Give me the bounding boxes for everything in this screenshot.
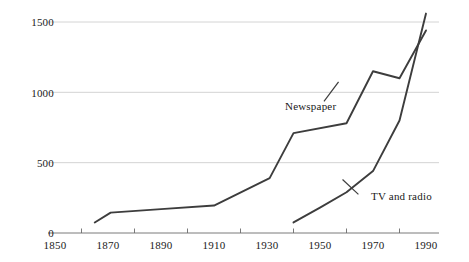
y-tick-label-1500: 1500 [8,16,54,28]
x-tick-label-1990: 1990 [404,239,448,251]
x-tick-label-1930: 1930 [245,239,289,251]
y-tick-label-1000: 1000 [8,87,54,99]
chart-plot-area [0,0,469,262]
x-tick-label-1890: 1890 [139,239,183,251]
x-tick-label-1870: 1870 [86,239,130,251]
x-tick-label-1850: 1850 [33,239,77,251]
series-label-tv-and-radio: TV and radio [371,190,432,202]
y-tick-label-500: 500 [8,157,54,169]
x-tick-label-1950: 1950 [298,239,342,251]
series-label-newspaper: Newspaper [285,100,336,112]
x-tick-label-1910: 1910 [192,239,236,251]
chart-container: 1500 1000 500 0 1850 1870 1890 1910 1930… [0,0,469,262]
leader-newspaper [324,82,339,102]
x-tick-label-1970: 1970 [351,239,395,251]
y-tick-label-0: 0 [8,227,54,239]
